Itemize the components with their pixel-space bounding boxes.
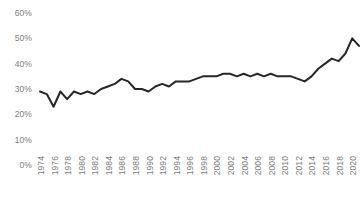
- x-axis-tick-label: 1980: [77, 156, 87, 175]
- x-axis-tick-label: 1996: [185, 156, 195, 175]
- x-axis-tick-label: 1988: [131, 156, 141, 175]
- series-line: [36, 0, 363, 170]
- y-axis-tick-label: 20%: [15, 109, 32, 119]
- x-axis-tick-label: 1992: [158, 156, 168, 175]
- line-chart: 0%10%20%30%40%50%60% 1974197619781980198…: [0, 0, 363, 214]
- plot-area: [36, 0, 363, 170]
- x-axis-tick-label: 1986: [117, 156, 127, 175]
- series-polyline: [40, 38, 359, 106]
- x-axis-tick-label: 2018: [335, 156, 345, 175]
- x-axis-tick-label: 1984: [104, 156, 114, 175]
- x-axis-tick-label: 1998: [199, 156, 209, 175]
- x-axis-tick-label: 1974: [36, 156, 46, 175]
- y-axis: 0%10%20%30%40%50%60%: [0, 0, 36, 170]
- y-axis-tick-label: 40%: [15, 59, 32, 69]
- x-axis-tick-label: 1978: [63, 156, 73, 175]
- x-axis-tick-label: 2002: [226, 156, 236, 175]
- x-axis-tick-label: 2016: [321, 156, 331, 175]
- x-axis-tick-label: 2008: [267, 156, 277, 175]
- y-axis-tick-label: 10%: [15, 135, 32, 145]
- y-axis-tick-label: 50%: [15, 33, 32, 43]
- y-axis-tick-label: 60%: [15, 8, 32, 18]
- x-axis-tick-label: 1976: [50, 156, 60, 175]
- x-axis-tick-label: 1982: [90, 156, 100, 175]
- x-axis-tick-label: 2014: [307, 156, 317, 175]
- y-axis-tick-label: 30%: [15, 84, 32, 94]
- x-axis-tick-label: 2004: [240, 156, 250, 175]
- x-axis-tick-label: 1990: [145, 156, 155, 175]
- x-axis-tick-label: 2010: [280, 156, 290, 175]
- x-axis: 1974197619781980198219841986198819901992…: [36, 156, 363, 214]
- y-axis-tick-label: 0%: [20, 160, 33, 170]
- x-axis-tick-label: 2012: [294, 156, 304, 175]
- x-axis-tick-label: 1994: [172, 156, 182, 175]
- x-axis-tick-label: 2020: [348, 156, 358, 175]
- x-axis-tick-label: 2006: [253, 156, 263, 175]
- x-axis-tick-label: 2000: [212, 156, 222, 175]
